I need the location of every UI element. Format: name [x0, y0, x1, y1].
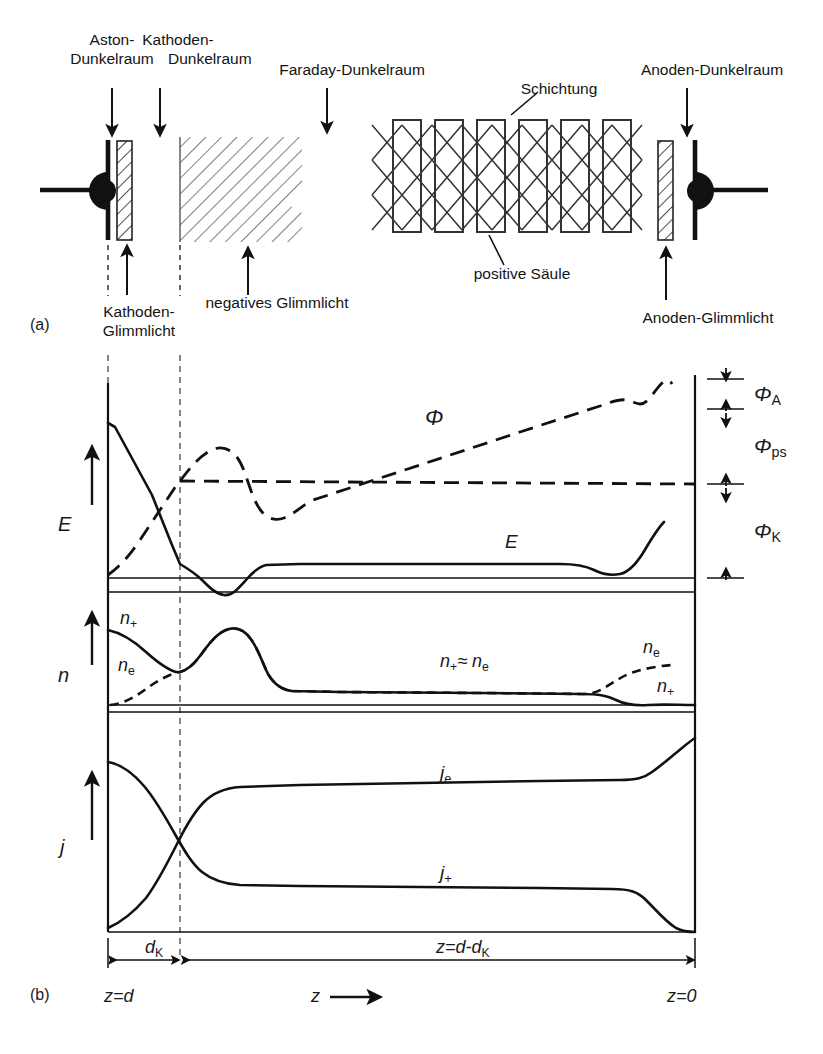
curve-label-E: E: [505, 531, 518, 553]
label-phi-A: ΦA: [754, 382, 781, 406]
curve-Phi: [108, 380, 672, 575]
discharge-schematic: [40, 88, 768, 300]
axis-label-j: j: [60, 836, 64, 859]
figure-part-a-label: (a): [30, 316, 50, 334]
curve-j-plus: [108, 762, 695, 932]
axis-label-n: n: [58, 664, 69, 687]
panel-n: [92, 592, 695, 712]
figure-svg: [0, 0, 823, 1054]
kathoden-glimmlicht-region: [117, 141, 132, 240]
label-positive-saeule: positive Säule: [474, 264, 571, 283]
label-faraday-dunkelraum: Faraday-Dunkelraum: [279, 60, 425, 79]
guide-lines: [108, 245, 180, 296]
plots-group: [92, 355, 744, 997]
label-n-e-right: ne: [643, 637, 660, 658]
label-anoden-dunkelraum: Anoden-Dunkelraum: [641, 60, 783, 79]
label-kathoden-dunkelraum: Kathoden-: [142, 30, 214, 49]
label-span-dK: dK: [145, 937, 163, 958]
curve-E: [108, 423, 664, 595]
anode-electrode: [687, 140, 768, 240]
label-phi-K: ΦK: [754, 519, 781, 543]
negatives-glimmlicht-region: [180, 137, 302, 242]
label-j-e: je: [440, 762, 451, 784]
anoden-glimmlicht-region: [658, 141, 673, 240]
x-tick-right: z=0: [667, 986, 697, 1007]
cathode-electrode: [40, 140, 116, 240]
label-n-e-left: ne: [118, 655, 135, 676]
panel-e-phi: [92, 368, 744, 595]
label-span-column: z=d-dK: [436, 937, 490, 958]
label-anoden-glimmlicht: Anoden-Glimmlicht: [643, 308, 774, 327]
figure-root: Aston-Dunkelraum Kathoden- Dunkelraum Fa…: [0, 0, 823, 1054]
x-tick-left: z=d: [104, 986, 134, 1007]
label-negatives-glimmlicht: negatives Glimmlicht: [206, 293, 349, 312]
label-kathoden-glimmlicht: Kathoden-Glimmlicht: [103, 302, 175, 340]
label-aston-dunkelraum: Aston-Dunkelraum: [70, 30, 154, 68]
label-n-plus-right: n+: [657, 676, 674, 697]
positive-saeule-leader: [489, 235, 504, 265]
curve-j-e: [108, 738, 695, 928]
curve-label-phi: Φ: [425, 405, 443, 431]
phi-reference-line: [180, 481, 695, 484]
axis-label-E: E: [58, 513, 71, 536]
panel-j: [92, 712, 695, 932]
label-schichtung: Schichtung: [521, 79, 598, 98]
x-dimension-lines: [108, 938, 695, 997]
label-n-plus-approx-n-e: n+≈ ne: [440, 651, 489, 672]
label-phi-ps: Φps: [754, 434, 787, 458]
figure-part-b-label: (b): [30, 986, 50, 1004]
positive-saeule-region: [372, 120, 642, 232]
callout-arrows-top: [112, 88, 687, 131]
label-j-plus: j+: [440, 862, 452, 884]
x-axis-label: z: [311, 986, 320, 1007]
phi-bracket-scale: [707, 368, 744, 580]
label-n-plus-left: n+: [120, 608, 137, 629]
